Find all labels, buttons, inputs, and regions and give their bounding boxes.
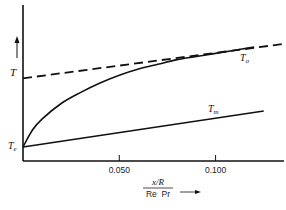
series-line-wall-temperature-curve: [23, 47, 254, 147]
x-axis-label-denominator: Re Pr: [146, 189, 170, 199]
x-axis-label-numerator: x/R: [151, 177, 164, 187]
y-axis-label: T: [10, 66, 17, 78]
chart-svg: 0.0500.100 T Te To Tm x/R Re Pr: [0, 0, 286, 210]
axes: [23, 5, 284, 161]
series-line-t-m: [23, 111, 264, 147]
to-label: To: [240, 52, 250, 65]
x-tick-label: 0.100: [205, 165, 227, 175]
to-label-sub: o: [246, 57, 250, 65]
x-axis-arrow-head: [195, 190, 201, 194]
x-tick-label: 0.050: [109, 165, 131, 175]
te-label: Te: [8, 140, 17, 153]
te-label-sub: e: [14, 145, 17, 153]
x-ticks: 0.0500.100: [109, 155, 227, 175]
tm-label: Tm: [208, 103, 219, 116]
y-axis-arrow-head: [15, 36, 20, 43]
tm-label-sub: m: [214, 108, 219, 116]
